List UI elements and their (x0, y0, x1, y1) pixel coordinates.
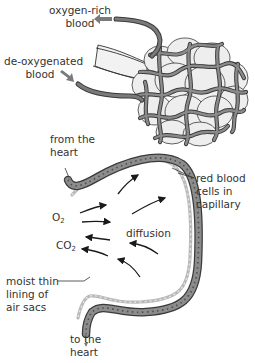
o2-label: O2 (52, 211, 65, 228)
diffusion-label: diffusion (126, 227, 171, 240)
red-blood-cells-label: red blood cells in capillary (196, 172, 246, 211)
capillary-cross-section (57, 158, 199, 346)
co2-diffusion-arrows (82, 237, 158, 277)
deoxygenated-blood-label: de-oxygenated blood (4, 55, 76, 81)
alveolus-gas-exchange-diagram: oxygen-rich blood de-oxygenated blood fr… (0, 0, 255, 363)
oxygen-rich-blood-label: oxygen-rich blood (44, 4, 116, 30)
from-the-heart-label: from the heart (50, 133, 95, 159)
alveoli-cluster (60, 14, 248, 146)
moist-thin-lining-label: moist thin lining of air sacs (6, 275, 59, 314)
co2-label: CO2 (56, 239, 76, 256)
to-the-heart-label: to the heart (70, 333, 101, 359)
